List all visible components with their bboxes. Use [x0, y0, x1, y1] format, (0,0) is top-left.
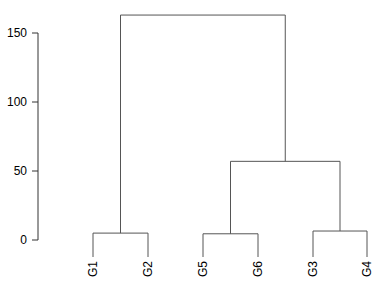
branch [313, 231, 367, 257]
branch [203, 234, 258, 257]
leaf-labels: G1G2G5G6G3G4 [86, 261, 374, 277]
dendrogram-branches [93, 15, 367, 257]
y-tick-label: 150 [7, 26, 27, 40]
dendrogram-chart: 050100150 G1G2G5G6G3G4 [0, 0, 388, 289]
y-tick-label: 100 [7, 95, 27, 109]
leaf-label: G4 [360, 261, 374, 277]
branch [231, 161, 341, 233]
y-tick-label: 0 [20, 233, 27, 247]
y-axis-labels: 050100150 [7, 26, 27, 247]
leaf-label: G2 [141, 261, 155, 277]
y-axis [32, 33, 38, 240]
y-tick-label: 50 [14, 164, 28, 178]
leaf-label: G6 [251, 261, 265, 277]
branch [121, 15, 286, 233]
leaf-label: G3 [306, 261, 320, 277]
leaf-label: G5 [196, 261, 210, 277]
branch [93, 233, 148, 257]
leaf-label: G1 [86, 261, 100, 277]
